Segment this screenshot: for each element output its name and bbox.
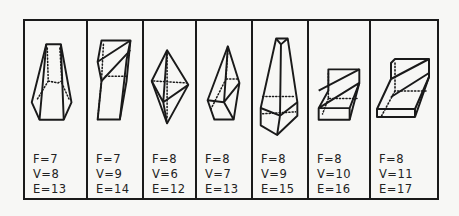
panel-2: F=7 V=9 E=14 [88,21,144,198]
vertices-label: V=11 [379,167,413,182]
panel-7: F=8 V=11 E=17 [371,21,437,198]
polyhedron-1-icon [25,21,86,141]
panel-4: F=8 V=7 E=13 [197,21,253,198]
faces-label: F=8 [317,152,351,167]
edges-label: E=17 [379,182,413,197]
edges-label: E=13 [205,182,239,197]
faces-label: F=7 [96,152,130,167]
polyhedron-7-icon [371,21,437,141]
edges-label: E=16 [317,182,351,197]
edges-label: E=13 [33,182,67,197]
vertices-label: V=7 [205,167,239,182]
faces-label: F=8 [152,152,186,167]
faces-label: F=8 [205,152,239,167]
panel-5: F=8 V=9 E=15 [253,21,309,198]
edges-label: E=14 [96,182,130,197]
faces-label: F=8 [261,152,295,167]
faces-label: F=8 [379,152,413,167]
polyhedron-2-icon [88,21,142,141]
vertices-label: V=9 [96,167,130,182]
polyhedra-table: F=7 V=8 E=13 F=7 V=9 E=14 F=8 V=6 E=12 [23,19,439,200]
polyhedron-3-icon [144,21,195,141]
polyhedron-6-icon [309,21,369,141]
vertices-label: V=8 [33,167,67,182]
vertices-label: V=6 [152,167,186,182]
polyhedron-5-icon [253,21,307,141]
edges-label: E=15 [261,182,295,197]
panel-1: F=7 V=8 E=13 [25,21,88,198]
panel-6: F=8 V=10 E=16 [309,21,371,198]
vertices-label: V=10 [317,167,351,182]
panel-3: F=8 V=6 E=12 [144,21,197,198]
vertices-label: V=9 [261,167,295,182]
faces-label: F=7 [33,152,67,167]
edges-label: E=12 [152,182,186,197]
polyhedron-4-icon [197,21,251,141]
